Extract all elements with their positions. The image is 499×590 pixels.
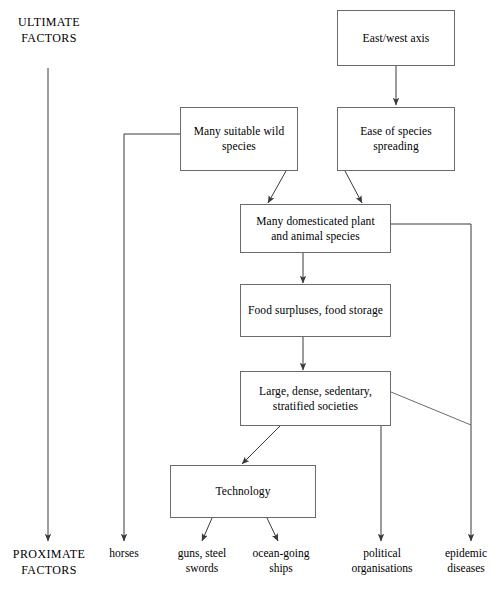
edge-wild-to-domesticated: [268, 171, 286, 203]
node-east-west-axis-label: East/west axis: [357, 31, 436, 46]
outcome-political-organisations: political organisations: [332, 546, 432, 576]
node-east-west-axis[interactable]: East/west axis: [337, 10, 455, 66]
node-many-suitable-wild-species-label: Many suitable wild species: [181, 124, 297, 154]
proximate-factors-label: PROXIMATE FACTORS: [4, 546, 94, 578]
flowchart-canvas: ULTIMATE FACTORS PROXIMATE FACTORS East/…: [0, 0, 499, 590]
outcome-guns-steel-swords: guns, steel swords: [164, 546, 240, 576]
edge-ease-to-domesticated: [345, 171, 362, 203]
node-large-dense-societies-label: Large, dense, sedentary, stratified soci…: [241, 384, 390, 414]
edge-societies-to-epidemic: [391, 392, 471, 425]
node-many-domesticated-species[interactable]: Many domesticated plant and animal speci…: [240, 204, 391, 253]
ultimate-factors-label: ULTIMATE FACTORS: [4, 14, 94, 46]
node-many-domesticated-species-label: Many domesticated plant and animal speci…: [241, 214, 390, 244]
node-technology[interactable]: Technology: [170, 465, 316, 518]
node-ease-of-species-spreading-label: Ease of species spreading: [338, 124, 454, 154]
edge-societies-to-technology: [242, 426, 280, 464]
node-ease-of-species-spreading[interactable]: Ease of species spreading: [337, 107, 455, 171]
outcome-epidemic-diseases: epidemic diseases: [434, 546, 498, 576]
node-technology-label: Technology: [209, 484, 276, 499]
edge-technology-to-ships: [267, 518, 278, 541]
node-large-dense-societies[interactable]: Large, dense, sedentary, stratified soci…: [240, 371, 391, 426]
node-many-suitable-wild-species[interactable]: Many suitable wild species: [180, 107, 298, 171]
outcome-ocean-going-ships: ocean-going ships: [243, 546, 319, 576]
edge-domesticated-to-epidemic: [391, 224, 471, 541]
node-food-surpluses-label: Food surpluses, food storage: [242, 303, 389, 318]
outcome-horses: horses: [94, 546, 154, 561]
edge-technology-to-guns: [202, 518, 212, 541]
node-food-surpluses[interactable]: Food surpluses, food storage: [240, 284, 391, 337]
